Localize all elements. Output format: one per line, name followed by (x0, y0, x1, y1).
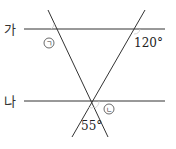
line-label-na: 나 (4, 94, 16, 109)
angle-arc-120 (134, 29, 140, 34)
line-label-ga: 가 (4, 22, 16, 37)
angle-arc-a (51, 24, 54, 29)
angle-marker-b: ㄴ (104, 104, 114, 114)
angle-label-b: ㄴ (106, 106, 112, 114)
angle-marker-a: ㄱ (44, 38, 54, 48)
angle-arc-b (95, 101, 99, 108)
angle-label-55: 55° (81, 119, 102, 133)
angle-label-120: 120° (134, 36, 163, 50)
angle-label-a: ㄱ (46, 40, 52, 48)
angle-arc-55 (88, 107, 95, 108)
parallel-lines-diagram: 가 나 ㄱ ㄴ 120° 55° (0, 0, 176, 149)
